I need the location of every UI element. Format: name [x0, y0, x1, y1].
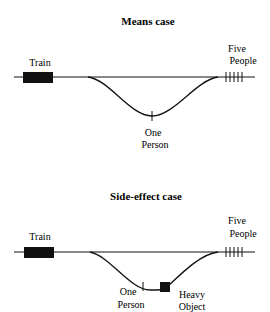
one-person-label-line2: Person [117, 299, 144, 310]
five-people-label-line2: People [229, 228, 257, 239]
train-label: Train [29, 231, 50, 242]
side-track [90, 252, 218, 290]
means-case-title: Means case [121, 15, 175, 27]
five-people-label-line2: People [229, 55, 257, 66]
one-person-label-line1: One [145, 127, 162, 138]
one-person-label-line2: Person [141, 139, 168, 150]
heavy-object [160, 282, 170, 292]
side-effect-case-title: Side-effect case [110, 190, 182, 202]
train [24, 247, 54, 258]
trolley-diagrams: Means case Train Five People One Person … [0, 0, 270, 312]
five-people-label-line1: Five [228, 215, 246, 226]
train-label: Train [29, 57, 50, 68]
one-person-label-line1: One [120, 286, 137, 297]
heavy-object-label-line1: Heavy [179, 289, 205, 300]
heavy-object-label-line2: Object [179, 301, 206, 312]
means-case-diagram: Means case Train Five People One Person [14, 15, 257, 150]
five-people-label-line1: Five [228, 43, 246, 54]
side-track [88, 77, 218, 116]
train [23, 72, 53, 83]
side-effect-case-diagram: Side-effect case Train Five People One P… [14, 190, 257, 312]
